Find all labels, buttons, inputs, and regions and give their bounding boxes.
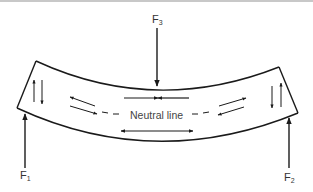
- force-f1-label: F1: [20, 170, 31, 184]
- force-f2-label: F2: [284, 172, 295, 186]
- right-neutral-shear-arrow-upper: [219, 98, 246, 106]
- force-f3-letter: F: [152, 13, 159, 25]
- force-f1-subscript: 1: [27, 175, 31, 182]
- force-f1-letter: F: [20, 169, 27, 181]
- left-neutral-shear-arrow-upper: [70, 97, 95, 106]
- beam-left-edge: [17, 61, 36, 108]
- neutral-line-label: Neutral line: [130, 110, 183, 121]
- beam-diagram: [0, 0, 313, 192]
- left-neutral-shear-arrow-lower: [70, 106, 97, 114]
- force-f2-subscript: 2: [291, 177, 295, 184]
- force-f3-subscript: 3: [159, 19, 163, 26]
- right-neutral-shear-arrow-lower: [218, 107, 244, 115]
- beam-right-edge: [279, 67, 298, 113]
- force-f3-label: F3: [152, 14, 163, 28]
- force-f2-letter: F: [284, 171, 291, 183]
